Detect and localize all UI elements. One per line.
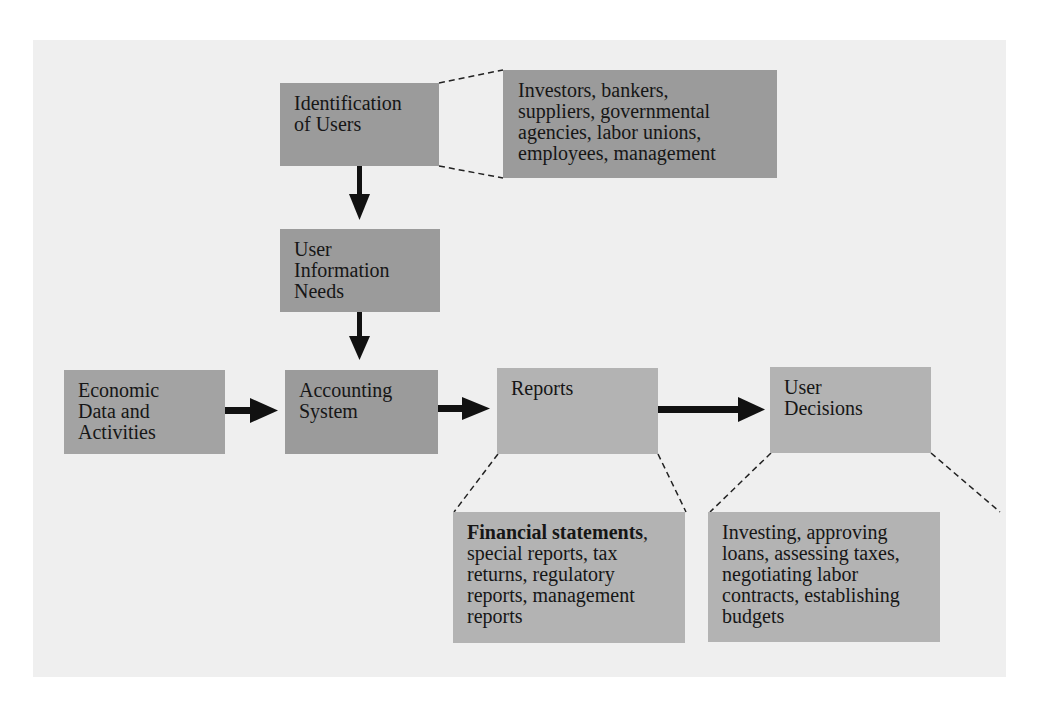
detail-line: reports, management: [467, 585, 671, 606]
detail-line: contracts, establishing: [722, 585, 926, 606]
node-label: Activities: [78, 422, 211, 443]
node-label: of Users: [294, 114, 425, 135]
callout-line: [439, 166, 503, 178]
callout-line: [454, 454, 498, 512]
node-decisions-detail: Investing, approving loans, assessing ta…: [708, 512, 940, 642]
node-label: Economic: [78, 380, 211, 401]
detail-text: ,: [643, 521, 648, 543]
detail-line: budgets: [722, 606, 926, 627]
detail-line: negotiating labor: [722, 564, 926, 585]
detail-line: loans, assessing taxes,: [722, 543, 926, 564]
detail-line: Investing, approving: [722, 522, 926, 543]
callout-line: [710, 453, 771, 512]
node-label: Data and: [78, 401, 211, 422]
node-label: Accounting: [299, 380, 424, 401]
callout-line: [658, 454, 686, 512]
node-label: Needs: [294, 281, 426, 302]
arrow-right-icon: [658, 397, 765, 422]
arrow-down-icon: [349, 166, 370, 220]
node-label: Reports: [511, 378, 644, 399]
callout-line: [439, 70, 503, 83]
node-accounting-system: Accounting System: [285, 370, 438, 454]
arrow-right-icon: [225, 398, 278, 423]
node-label: User: [294, 239, 426, 260]
node-identification-of-users: Identification of Users: [280, 83, 439, 166]
detail-line: Investors, bankers,: [518, 80, 763, 101]
node-label: Identification: [294, 93, 425, 114]
arrow-right-icon: [438, 397, 490, 420]
detail-line: Financial statements,: [467, 522, 671, 543]
arrow-down-icon: [349, 312, 370, 360]
callout-line: [931, 453, 1000, 512]
node-reports: Reports: [497, 368, 658, 454]
bold-term: Financial statements: [467, 521, 643, 543]
node-users-detail: Investors, bankers, suppliers, governmen…: [503, 70, 777, 178]
node-user-information-needs: User Information Needs: [280, 229, 440, 312]
detail-line: employees, management: [518, 143, 763, 164]
node-label: User: [784, 377, 917, 398]
node-label: System: [299, 401, 424, 422]
node-user-decisions: User Decisions: [770, 367, 931, 453]
detail-line: returns, regulatory: [467, 564, 671, 585]
detail-line: agencies, labor unions,: [518, 122, 763, 143]
detail-line: special reports, tax: [467, 543, 671, 564]
detail-line: suppliers, governmental: [518, 101, 763, 122]
node-reports-detail: Financial statements, special reports, t…: [453, 512, 685, 643]
node-label: Decisions: [784, 398, 917, 419]
node-economic-data: Economic Data and Activities: [64, 370, 225, 454]
node-label: Information: [294, 260, 426, 281]
detail-line: reports: [467, 606, 671, 627]
